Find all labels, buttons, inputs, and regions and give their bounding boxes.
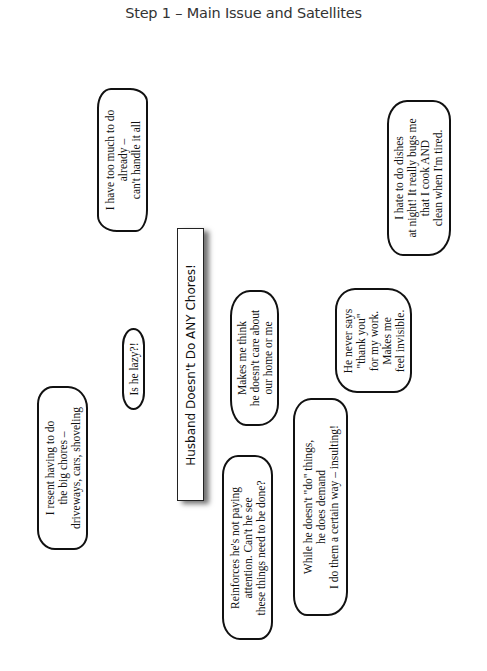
satellite-text: He never says "thank you" for my work. M…	[341, 308, 406, 373]
satellite-doesnt-care: Makes me think he doesn't care about our…	[230, 290, 279, 426]
satellite-not-paying-attention: Reinforces he's not paying attention. Ca…	[222, 455, 273, 640]
satellite-too-much: I have too much to do already – can't ha…	[97, 88, 148, 232]
satellite-big-chores: I resent having to do the big chores – d…	[37, 386, 88, 550]
satellite-text: Is he lazy?!	[127, 343, 140, 396]
satellite-text: Makes me think he doesn't care about our…	[235, 310, 274, 406]
satellite-dishes: I hate to do dishes at night! It really …	[387, 100, 451, 256]
page-title: Step 1 – Main Issue and Satellites	[0, 5, 487, 21]
satellite-thank-you: He never says "thank you" for my work. M…	[335, 288, 412, 393]
satellite-text: While he doesn't "do" things, he does de…	[301, 425, 340, 589]
satellite-text: I have too much to do already – can't ha…	[103, 110, 142, 211]
satellite-text: Reinforces he's not paying attention. Ca…	[228, 480, 267, 615]
satellite-demands: While he doesn't "do" things, he does de…	[293, 398, 348, 616]
satellite-text: I resent having to do the big chores – d…	[43, 407, 82, 529]
main-issue-box: Husband Doesn't Do ANY Chores!	[177, 228, 204, 501]
satellite-lazy: Is he lazy?!	[122, 328, 145, 410]
satellite-text: I hate to do dishes at night! It really …	[393, 118, 445, 237]
main-issue-text: Husband Doesn't Do ANY Chores!	[184, 264, 198, 466]
